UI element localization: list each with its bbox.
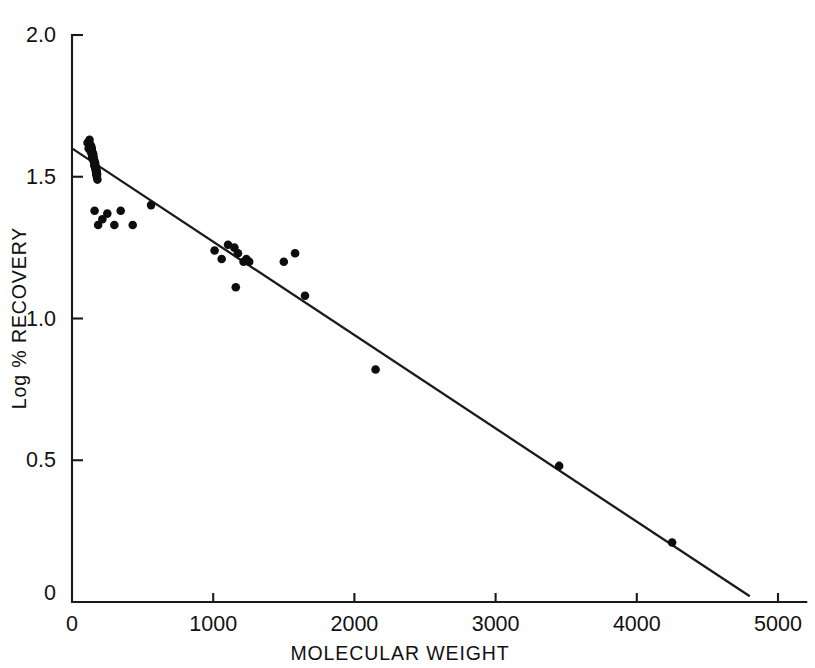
data-point bbox=[234, 249, 243, 258]
x-axis-title: MOLECULAR WEIGHT bbox=[290, 642, 509, 664]
tick-marks-group bbox=[72, 35, 778, 602]
tick-labels-group: 01000200030004000500000.51.01.52.0 bbox=[26, 23, 802, 636]
regression-line bbox=[72, 148, 750, 596]
data-point bbox=[301, 292, 310, 301]
x-tick-label-4000: 4000 bbox=[613, 612, 661, 636]
data-point bbox=[217, 255, 226, 264]
y-tick-label-0.5: 0.5 bbox=[26, 448, 56, 472]
y-tick-label-2: 2.0 bbox=[26, 23, 56, 47]
data-points-group bbox=[83, 136, 676, 547]
y-tick-label-1: 1.0 bbox=[26, 307, 56, 331]
y-axis-title: Log % RECOVERY bbox=[8, 227, 30, 409]
data-point bbox=[668, 538, 677, 547]
y-tick-label-0: 0 bbox=[44, 581, 56, 605]
chart-container: 01000200030004000500000.51.01.52.0 MOLEC… bbox=[0, 0, 815, 668]
x-tick-label-2000: 2000 bbox=[330, 612, 378, 636]
y-tick-label-1.5: 1.5 bbox=[26, 165, 56, 189]
data-point bbox=[87, 144, 96, 153]
data-point bbox=[280, 258, 289, 267]
x-tick-label-0: 0 bbox=[66, 612, 78, 636]
data-point bbox=[128, 221, 137, 230]
data-point bbox=[92, 170, 101, 179]
data-point bbox=[555, 462, 564, 471]
data-point bbox=[116, 206, 125, 215]
data-point bbox=[90, 206, 99, 215]
x-tick-label-1000: 1000 bbox=[189, 612, 237, 636]
data-point bbox=[371, 365, 380, 374]
data-point bbox=[147, 201, 156, 210]
x-tick-label-3000: 3000 bbox=[472, 612, 520, 636]
data-point bbox=[103, 209, 112, 218]
data-point bbox=[210, 246, 219, 255]
data-point bbox=[110, 221, 119, 230]
data-point bbox=[245, 258, 254, 267]
scatter-plot: 01000200030004000500000.51.01.52.0 MOLEC… bbox=[0, 0, 815, 668]
data-point bbox=[231, 283, 240, 292]
data-point bbox=[291, 249, 300, 258]
x-tick-label-5000: 5000 bbox=[754, 612, 802, 636]
